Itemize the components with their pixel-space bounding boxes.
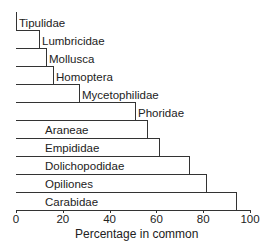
bar-mollusca [16, 48, 47, 67]
bar-label-tipulidae: Tipulidae [19, 16, 65, 30]
bar-label-araneae: Araneae [45, 123, 88, 137]
x-tick-label: 40 [103, 212, 116, 226]
bar-phoridae [16, 102, 136, 121]
x-axis-label: Percentage in common [75, 227, 198, 241]
bar-homoptera [16, 66, 54, 85]
x-tick-label: 80 [197, 212, 210, 226]
bar-label-opiliones: Opiliones [45, 177, 93, 191]
bar-label-phoridae: Phoridae [138, 106, 184, 120]
x-tick-label: 60 [150, 212, 163, 226]
horizontal-bar-chart: TipulidaeLumbricidaeMolluscaHomopteraMyc… [0, 0, 272, 245]
bar-label-homoptera: Homoptera [56, 70, 113, 84]
bar-label-mycetophilidae: Mycetophilidae [82, 88, 159, 102]
bar-label-empididae: Empididae [45, 141, 99, 155]
x-tick-label: 20 [56, 212, 69, 226]
bar-label-mollusca: Mollusca [49, 52, 94, 66]
x-tick-label: 100 [240, 212, 259, 226]
x-tick-label: 0 [13, 212, 19, 226]
bar-lumbricidae [16, 30, 40, 49]
bar-mycetophilidae [16, 84, 80, 103]
bar-label-dolichopodidae: Dolichopodidae [45, 159, 124, 173]
bar-label-lumbricidae: Lumbricidae [42, 34, 105, 48]
bar-label-carabidae: Carabidae [45, 195, 98, 209]
